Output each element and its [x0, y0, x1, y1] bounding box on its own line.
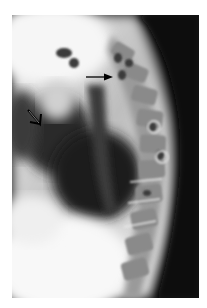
annotation-arrow-down-right-icon	[26, 108, 44, 128]
annotation-arrow-right-icon	[86, 72, 114, 82]
radiograph-image	[12, 15, 199, 298]
